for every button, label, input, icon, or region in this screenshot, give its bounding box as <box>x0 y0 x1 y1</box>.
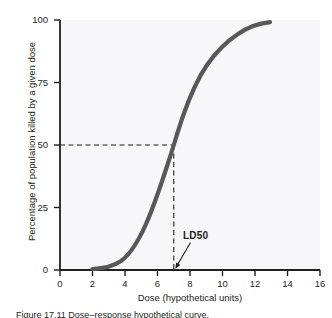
dose-response-curve <box>93 22 271 269</box>
x-tick-label-10: 10 <box>212 279 234 289</box>
x-tick-label-8: 8 <box>179 279 201 289</box>
x-tick-label-4: 4 <box>114 279 136 289</box>
chart-canvas <box>0 0 332 318</box>
ld50-annotation-label: LD50 <box>183 230 208 241</box>
x-tick-label-6: 6 <box>147 279 169 289</box>
y-tick-label-0: 0 <box>22 265 48 275</box>
x-tick-label-2: 2 <box>82 279 104 289</box>
x-tick-label-16: 16 <box>309 279 331 289</box>
figure-caption: Figure 17.11 Dose–response hypothetical … <box>16 309 316 318</box>
ld50-arrow <box>175 243 190 269</box>
x-axis-title: Dose (hypothetical units) <box>60 292 320 303</box>
x-tick-label-0: 0 <box>49 279 71 289</box>
figure-container: 100 75 50 25 0 0 2 4 6 8 10 12 14 16 Per… <box>0 0 332 318</box>
y-tick-label-100: 100 <box>22 15 48 25</box>
x-tick-label-12: 12 <box>244 279 266 289</box>
x-tick-label-14: 14 <box>277 279 299 289</box>
y-axis-title: Percentage of population killed by a giv… <box>26 27 37 257</box>
